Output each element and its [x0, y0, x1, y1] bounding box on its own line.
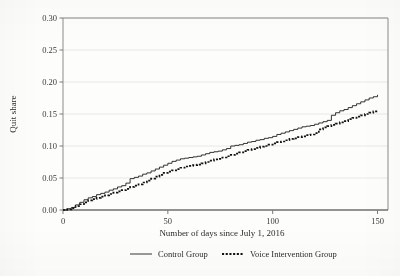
- y-axis-label: Quit share: [8, 95, 18, 132]
- legend-label-2: Voice Intervention Group: [250, 249, 337, 259]
- x-tick-label: 0: [61, 216, 65, 226]
- y-tick-label: 0.15: [42, 109, 57, 119]
- y-tick-label: 0.00: [42, 205, 57, 215]
- legend-label-1: Control Group: [158, 249, 208, 259]
- x-tick-label: 100: [266, 216, 279, 226]
- y-tick-label: 0.20: [42, 77, 57, 87]
- gridlines-group: [63, 18, 388, 178]
- chart-canvas: 0.000.050.100.150.200.250.30 050100150 Q…: [0, 0, 400, 276]
- data-series-group: [63, 95, 378, 210]
- y-tick-label: 0.05: [42, 173, 57, 183]
- y-axis-ticks: 0.000.050.100.150.200.250.30: [42, 13, 63, 215]
- x-axis-label: Number of days since July 1, 2016: [159, 228, 285, 238]
- y-tick-label: 0.25: [42, 45, 57, 55]
- quit-share-figure: 0.000.050.100.150.200.250.30 050100150 Q…: [0, 0, 400, 276]
- y-tick-label: 0.10: [42, 141, 57, 151]
- series-line-2: [63, 110, 378, 210]
- x-axis-ticks: 050100150: [61, 210, 384, 226]
- x-tick-label: 50: [164, 216, 173, 226]
- x-tick-label: 150: [371, 216, 384, 226]
- chart-legend: Control GroupVoice Intervention Group: [130, 249, 337, 259]
- y-tick-label: 0.30: [42, 13, 57, 23]
- series-line-1: [63, 95, 378, 210]
